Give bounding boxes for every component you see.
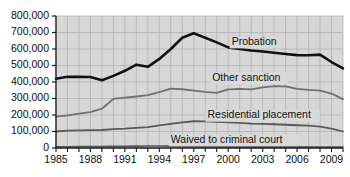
x-axis-label: 2000 [217,153,241,165]
x-axis-label: 1991 [113,153,137,165]
x-axis-label: 2003 [251,153,275,165]
series-label-residential-placement: Residential placement [208,108,311,120]
x-axis-label: 2009 [320,153,344,165]
x-axis-label: 2006 [285,153,309,165]
chart-container: 0100,000200,000300,000400,000500,000600,… [0,0,350,177]
series-label-waived-to-criminal-court: Waived to criminal court [171,133,283,145]
y-axis-label: 400,000 [11,75,49,87]
line-chart: 0100,000200,000300,000400,000500,000600,… [0,0,350,177]
x-axis-tick-labels: 198519881991199419972000200320062009 [44,153,343,165]
x-axis-label: 1985 [44,153,68,165]
y-axis-label: 800,000 [11,9,49,21]
x-axis-label: 1988 [79,153,103,165]
y-axis-label: 700,000 [11,25,49,37]
series-label-probation: Probation [232,35,277,47]
series-label-other-sanction: Other sanction [212,71,280,83]
y-axis-label: 600,000 [11,42,49,54]
y-axis-label: 500,000 [11,58,49,70]
y-axis-label: 300,000 [11,91,49,103]
x-axis-label: 1997 [182,153,206,165]
y-axis-label: 100,000 [11,124,49,136]
x-axis-label: 1994 [148,153,172,165]
y-axis-label: 200,000 [11,108,49,120]
y-axis-label: 0 [43,141,49,153]
y-axis-tick-labels: 0100,000200,000300,000400,000500,000600,… [11,9,49,153]
